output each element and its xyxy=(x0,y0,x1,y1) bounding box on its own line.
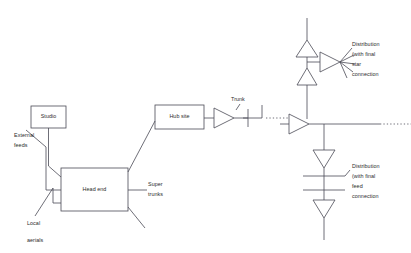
star-amplifier-triangle[interactable] xyxy=(320,52,340,72)
leader-trunk-label xyxy=(236,104,240,110)
network-diagram-canvas: Studio Head end Hub site External feeds … xyxy=(0,0,411,253)
branch-amplifier-top-triangle[interactable] xyxy=(296,40,318,57)
feed-amplifier-lower-triangle[interactable] xyxy=(313,200,335,218)
distribution-feed-label-line3: feed xyxy=(352,182,363,190)
box-outlines xyxy=(31,105,204,211)
trunk-label: Trunk xyxy=(231,95,245,103)
trunk-amplifier-triangle[interactable] xyxy=(214,108,234,128)
distribution-feed-label-line4: connection xyxy=(352,192,379,200)
distribution-star-label-line4: connection xyxy=(352,70,379,78)
branch-amplifier-mid-triangle[interactable] xyxy=(297,68,317,85)
distribution-amplifier-triangle[interactable] xyxy=(289,114,309,134)
external-feeds-label-line1: External xyxy=(14,131,34,139)
distribution-feed-label-line1: Distribution xyxy=(352,162,380,170)
head-end-box-label: Head end xyxy=(61,186,128,192)
super-trunks-label-line1: Super xyxy=(148,180,163,188)
external-feeds-label-line2: feeds xyxy=(14,141,27,149)
hub-site-box-label: Hub site xyxy=(155,113,204,119)
amplifier-symbols xyxy=(214,40,340,218)
studio-box-label: Studio xyxy=(31,113,66,119)
distribution-feed-label-line2: (with final xyxy=(352,172,375,180)
local-aerials-label-line2: aerials xyxy=(27,236,43,244)
leader-distribution-feed-label xyxy=(345,170,350,176)
link-headend-super-trunk-lower xyxy=(128,207,145,228)
local-aerials-label-line1: Local xyxy=(27,219,40,227)
link-headend-to-hubsite xyxy=(128,121,155,172)
link-studio-to-headend xyxy=(49,128,62,177)
feed-amplifier-upper-triangle[interactable] xyxy=(313,150,335,168)
leader-local-aerials xyxy=(35,188,53,216)
super-trunks-label-line2: trunks xyxy=(148,190,163,198)
diagram-vector-layer xyxy=(0,0,411,253)
distribution-star-label-line2: (with final xyxy=(352,50,375,58)
distribution-star-label-line3: star xyxy=(352,60,361,68)
distribution-star-label-line1: Distribution xyxy=(352,40,380,48)
